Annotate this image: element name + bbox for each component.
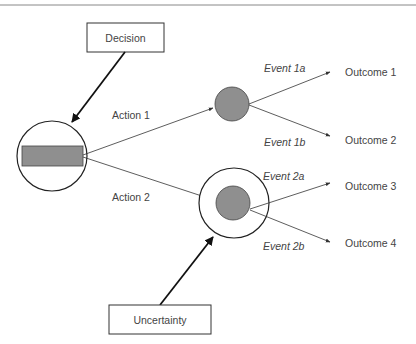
action-1-label: Action 1 <box>112 109 150 121</box>
event-2b-label: Event 2b <box>263 240 305 252</box>
outcome-2-label: Outcome 2 <box>345 134 397 146</box>
decision-label: Decision <box>105 32 145 44</box>
event-1a-label: Event 1a <box>264 62 306 74</box>
event-1b-branch <box>249 105 330 136</box>
outcome-4-label: Outcome 4 <box>345 237 397 249</box>
event-1b-label: Event 1b <box>264 136 306 148</box>
event-2a-label: Event 2a <box>263 170 305 182</box>
uncertainty-box: Uncertainty <box>109 305 211 334</box>
decision-square <box>22 146 83 166</box>
event-1a-branch <box>249 72 330 104</box>
outcome-3-label: Outcome 3 <box>345 180 397 192</box>
decision-box: Decision <box>87 23 164 52</box>
decision-tree-diagram: Decision Action 1 Action 2 Event 1a Even… <box>0 0 416 344</box>
action-2-label: Action 2 <box>112 191 150 203</box>
event-2b-branch <box>250 210 330 242</box>
decision-node <box>17 121 87 191</box>
outcome-1-label: Outcome 1 <box>345 66 397 78</box>
chance-node-1 <box>215 87 249 121</box>
uncertainty-label: Uncertainty <box>133 314 187 326</box>
chance-node-2 <box>216 186 250 220</box>
uncertainty-pointer-arrow <box>160 237 213 305</box>
